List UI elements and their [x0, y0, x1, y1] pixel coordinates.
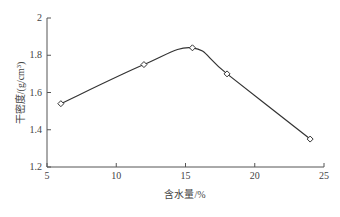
y-tick-label: 1.2	[30, 161, 43, 172]
x-tick-label: 10	[111, 170, 121, 181]
y-tick-label: 1.4	[30, 124, 43, 135]
y-tick-label: 2	[37, 12, 42, 23]
x-tick-label: 15	[181, 170, 191, 181]
diamond-marker	[141, 62, 147, 68]
x-tick-label: 5	[45, 170, 50, 181]
diamond-marker	[58, 101, 64, 107]
y-tick-label: 1.6	[30, 87, 43, 98]
x-tick-label: 20	[250, 170, 260, 181]
x-tick-label: 25	[319, 170, 329, 181]
x-axis-label: 含水量/%	[164, 188, 205, 200]
data-markers	[58, 45, 313, 142]
y-axis-label: 干密度/(g/cm³)	[14, 62, 27, 124]
axes	[47, 18, 324, 167]
diamond-marker	[189, 45, 195, 51]
y-tick-label: 1.8	[30, 49, 43, 60]
data-line	[61, 48, 310, 139]
chart: 5101520251.21.41.61.82 含水量/% 干密度/(g/cm³)	[0, 0, 340, 217]
